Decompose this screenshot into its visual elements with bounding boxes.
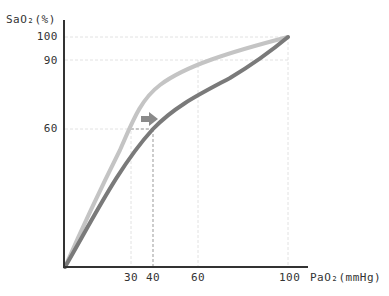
- y-tick-90: 90: [28, 54, 58, 67]
- normal-curve: [65, 37, 288, 267]
- x-tick-30: 30: [124, 271, 138, 284]
- y-tick-60: 60: [28, 122, 58, 135]
- x-tick-100: 100: [279, 271, 300, 284]
- shifted-curve: [65, 37, 288, 267]
- y-tick-100: 100: [28, 30, 58, 43]
- oxygen-dissociation-chart: [0, 0, 389, 296]
- x-axis-label: PaO₂(mmHg): [310, 271, 381, 284]
- y-axis-label: SaO₂(%): [6, 13, 56, 26]
- x-tick-40: 40: [146, 271, 160, 284]
- x-tick-60: 60: [191, 271, 205, 284]
- reference-lines: [65, 37, 288, 267]
